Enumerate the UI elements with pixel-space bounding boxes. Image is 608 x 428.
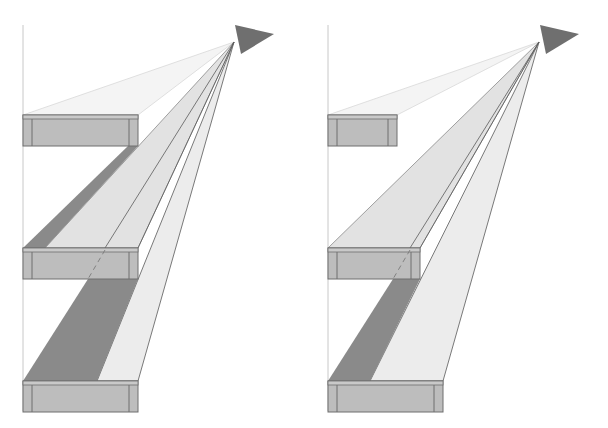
lamp-icon	[540, 25, 579, 54]
middle-shelf	[328, 248, 420, 279]
shelf-front-face	[23, 381, 138, 412]
shelf-top-edge	[328, 248, 420, 252]
diagram-canvas: Light source illuminating shelves with c…	[0, 0, 608, 428]
bottom-shelf	[23, 381, 138, 412]
shelf-top-edge	[23, 115, 138, 119]
shelf-front-face	[328, 248, 420, 279]
bottom-shelf	[328, 381, 443, 412]
shelf-front-face	[23, 115, 138, 146]
shelf-top-edge	[328, 381, 443, 385]
shelf-lighting-diagram: Light source illuminating shelves with c…	[0, 0, 608, 428]
middle-shelf	[23, 248, 138, 279]
shelf-front-face	[328, 381, 443, 412]
shelf-top-edge	[328, 115, 397, 119]
shelf-top-edge	[23, 381, 138, 385]
shelf-front-face	[23, 248, 138, 279]
shelf-front-face	[328, 115, 397, 146]
shelf-top-edge	[23, 248, 138, 252]
top-shelf	[328, 115, 397, 146]
top-shelf	[23, 115, 138, 146]
left-panel	[23, 25, 274, 412]
right-panel	[328, 25, 579, 412]
lamp-icon	[235, 25, 274, 54]
